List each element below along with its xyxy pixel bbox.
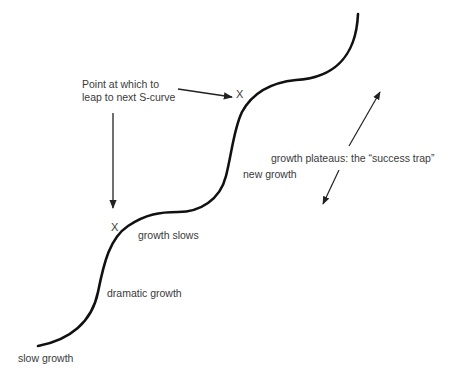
slow-growth-label: slow growth xyxy=(18,352,73,365)
plateau-arrow-up xyxy=(349,92,380,146)
s-curve-diagram: Point at which to leap to next S-curve X… xyxy=(0,0,456,385)
lower-x-marker: X xyxy=(111,221,118,233)
dramatic-growth-label: dramatic growth xyxy=(107,287,182,300)
plateau-label: growth plateaus: the “success trap” xyxy=(271,152,434,165)
leap-label: Point at which to leap to next S-curve xyxy=(82,78,175,103)
leap-label-line2: leap to next S-curve xyxy=(82,91,175,104)
plateau-arrow-down xyxy=(323,170,339,204)
growth-curve xyxy=(38,14,358,346)
diagram-graphics xyxy=(0,0,456,385)
growth-slows-label: growth slows xyxy=(138,229,199,242)
new-growth-label: new growth xyxy=(243,168,297,181)
leap-arrow-horizontal xyxy=(178,89,232,97)
upper-x-marker: X xyxy=(236,88,243,100)
leap-label-line1: Point at which to xyxy=(82,78,175,91)
